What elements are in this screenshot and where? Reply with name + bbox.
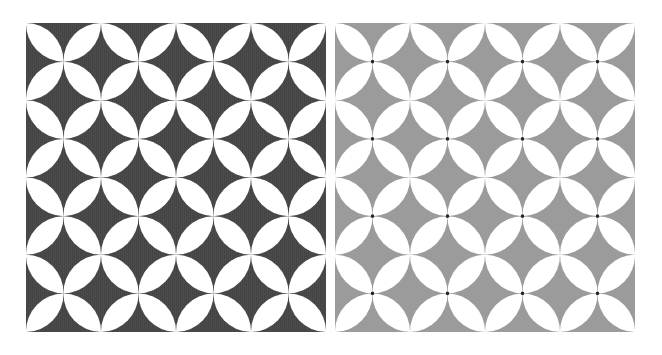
shippo-pattern-dark xyxy=(26,23,326,332)
pattern-panel-dark xyxy=(26,23,326,332)
shippo-pattern-light xyxy=(335,23,635,332)
pattern-panel-light xyxy=(335,23,635,332)
